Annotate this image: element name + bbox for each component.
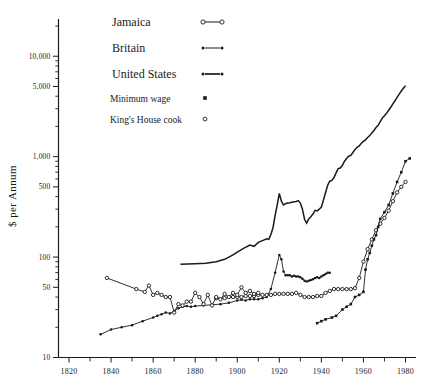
data-point: [177, 307, 180, 310]
y-tick-label: 10,000: [29, 52, 51, 61]
data-point: [395, 191, 398, 194]
data-point: [215, 295, 218, 298]
data-point: [261, 297, 264, 300]
legend-label: United States: [112, 67, 177, 81]
data-point: [335, 315, 338, 318]
data-point: [320, 275, 323, 278]
data-point: [299, 276, 302, 279]
legend-marker: [202, 73, 205, 76]
data-point: [181, 304, 184, 307]
data-point: [151, 293, 154, 296]
legend-marker: [221, 73, 224, 76]
data-point: [375, 234, 378, 237]
data-point: [400, 171, 403, 174]
data-point: [249, 298, 252, 301]
data-point: [324, 273, 327, 276]
data-point: [294, 291, 297, 294]
data-point: [131, 324, 134, 327]
data-point: [290, 292, 293, 295]
data-point: [252, 292, 255, 295]
data-point: [143, 290, 146, 293]
data-point: [168, 295, 171, 298]
data-point: [383, 216, 386, 219]
x-tick-label: 1840: [102, 367, 119, 376]
data-point: [353, 286, 356, 289]
data-point: [156, 291, 159, 294]
data-point: [366, 258, 369, 261]
data-point: [364, 268, 367, 271]
data-point: [278, 254, 281, 257]
data-point: [240, 286, 243, 289]
data-point: [307, 295, 310, 298]
data-point: [332, 287, 335, 290]
y-tick-label: 100: [39, 253, 51, 262]
data-point: [193, 291, 196, 294]
data-point: [223, 292, 226, 295]
chart-figure: 10501005001,0005,00010,000 1820184018601…: [0, 0, 426, 391]
y-tick-label: 10: [43, 353, 51, 362]
data-point: [231, 291, 234, 294]
data-point: [165, 311, 168, 314]
data-point: [404, 160, 407, 163]
data-point: [358, 294, 361, 297]
data-point: [160, 313, 163, 316]
data-point: [228, 302, 231, 305]
legend-marker: [221, 47, 224, 50]
data-point: [248, 289, 251, 292]
data-point: [404, 180, 407, 183]
data-point: [324, 318, 327, 321]
wages-log-chart: 10501005001,0005,00010,000 1820184018601…: [0, 0, 426, 391]
data-point: [350, 303, 353, 306]
data-point: [328, 289, 331, 292]
data-point: [194, 305, 197, 308]
data-point: [253, 298, 256, 301]
x-tick-label: 1820: [60, 367, 77, 376]
data-point: [336, 287, 339, 290]
data-point: [269, 293, 272, 296]
data-point: [301, 277, 304, 280]
data-point: [362, 291, 365, 294]
data-point: [169, 312, 172, 315]
legend-marker: [201, 20, 205, 24]
data-point: [147, 284, 150, 287]
data-point: [329, 271, 332, 274]
legend-marker: [220, 20, 224, 24]
data-point: [231, 295, 234, 298]
data-point: [278, 292, 281, 295]
y-tick-label: 5,000: [33, 82, 51, 91]
data-point: [320, 320, 323, 323]
data-point: [315, 294, 318, 297]
data-point: [105, 276, 108, 279]
data-point: [349, 287, 352, 290]
data-point: [160, 293, 163, 296]
data-point: [164, 295, 167, 298]
data-point: [377, 226, 380, 229]
data-point: [282, 270, 285, 273]
data-point: [311, 295, 314, 298]
data-point: [366, 247, 369, 250]
data-point: [99, 333, 102, 336]
data-point: [177, 302, 180, 305]
data-point: [135, 287, 138, 290]
data-point: [387, 209, 390, 212]
data-point: [219, 303, 222, 306]
data-point: [273, 292, 276, 295]
data-point: [368, 252, 371, 255]
data-point: [190, 306, 193, 309]
data-point: [210, 304, 213, 307]
data-point: [303, 295, 306, 298]
data-point: [257, 291, 260, 294]
legend-marker: [203, 117, 207, 121]
data-point: [383, 211, 386, 214]
data-point: [186, 305, 189, 308]
data-point: [141, 320, 144, 323]
data-point: [408, 157, 411, 160]
data-point: [396, 181, 399, 184]
data-point: [236, 299, 239, 302]
data-point: [185, 300, 188, 303]
data-point: [312, 278, 315, 281]
legend-label: Britain: [112, 41, 145, 55]
data-point: [286, 292, 289, 295]
data-point: [120, 326, 123, 329]
data-point: [156, 315, 159, 318]
